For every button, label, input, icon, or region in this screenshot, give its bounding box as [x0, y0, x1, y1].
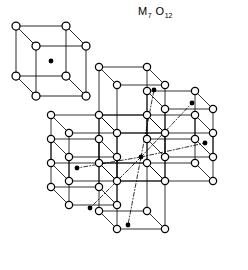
- anion-circle: [113, 177, 120, 184]
- cation-dot: [139, 155, 144, 160]
- legend-anion-circle: [32, 92, 40, 100]
- anion-circle: [95, 159, 102, 166]
- anion-circle: [209, 153, 216, 160]
- legend-anion-circle: [32, 42, 40, 50]
- anion-circle: [95, 63, 102, 70]
- anion-circle: [143, 159, 150, 166]
- anion-circle: [191, 135, 198, 142]
- anion-circle: [65, 201, 72, 208]
- anion-circle: [191, 111, 198, 118]
- anion-circle: [161, 81, 168, 88]
- anion-circle: [161, 129, 168, 136]
- anion-circle: [209, 129, 216, 136]
- anion-circle: [161, 153, 168, 160]
- anion-circle: [113, 81, 120, 88]
- anion-circle: [95, 111, 102, 118]
- anion-circle: [47, 183, 54, 190]
- anion-circle: [161, 105, 168, 112]
- anion-circle: [47, 159, 54, 166]
- anion-circle: [95, 135, 102, 142]
- legend-anion-circle: [82, 92, 90, 100]
- anion-circle: [161, 177, 168, 184]
- anion-circle: [47, 135, 54, 142]
- anion-circle: [191, 87, 198, 94]
- cation-dot: [75, 166, 80, 171]
- anion-circle: [113, 153, 120, 160]
- anion-circle: [191, 159, 198, 166]
- crystal-structure-figure: [0, 0, 248, 270]
- body-diagonal-line: [77, 157, 141, 168]
- anion-circle: [95, 207, 102, 214]
- anion-circle: [47, 111, 54, 118]
- cation-dot: [190, 101, 195, 106]
- anion-circle: [209, 177, 216, 184]
- anion-circle: [113, 129, 120, 136]
- anion-circle: [143, 111, 150, 118]
- anion-circle: [143, 63, 150, 70]
- cation-dot: [126, 223, 131, 228]
- legend-anion-circle: [12, 22, 20, 30]
- anion-circle: [143, 207, 150, 214]
- anion-circle: [113, 225, 120, 232]
- anion-circle: [143, 87, 150, 94]
- anion-circle: [143, 135, 150, 142]
- legend-anion-circle: [82, 42, 90, 50]
- anion-circle: [65, 177, 72, 184]
- cation-dot: [152, 88, 157, 93]
- cation-dots-group: [49, 59, 208, 228]
- legend-cation-dot: [49, 59, 54, 64]
- anion-circles-group: [12, 22, 217, 233]
- legend-anion-circle: [62, 22, 70, 30]
- cation-dot: [203, 141, 208, 146]
- anion-circle: [65, 153, 72, 160]
- anion-circle: [65, 129, 72, 136]
- anion-circle: [161, 225, 168, 232]
- anion-circle: [209, 105, 216, 112]
- anion-circle: [113, 201, 120, 208]
- legend-anion-circle: [62, 72, 70, 80]
- cation-dot: [88, 206, 93, 211]
- body-diagonal-line: [128, 157, 141, 225]
- anion-circle: [95, 183, 102, 190]
- legend-anion-circle: [12, 72, 20, 80]
- body-diagonal-line: [141, 90, 154, 157]
